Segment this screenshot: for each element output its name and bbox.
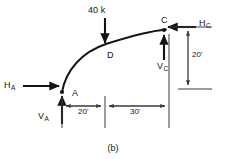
hinge-node-a [60, 90, 64, 94]
vertical-dimension-line [169, 27, 212, 89]
label-point-d: D [107, 51, 114, 60]
label-point-a: A [72, 89, 78, 98]
diagram-canvas [0, 0, 226, 159]
label-dimension-rise: 20' [192, 51, 203, 59]
figure-caption: (b) [0, 143, 226, 153]
arch-rib [62, 30, 166, 93]
label-reaction-hc: HC [199, 19, 210, 28]
hinge-node-c [162, 28, 166, 32]
arch-free-body-diagram: HA VA HC VC A D C 40 k 20' 30' 20' (b) [0, 0, 226, 159]
label-point-c: C [161, 16, 168, 25]
label-reaction-vc: VC [157, 62, 168, 71]
label-reaction-ha: HA [4, 81, 15, 90]
label-reaction-va: VA [38, 112, 49, 121]
label-applied-load: 40 k [88, 6, 105, 15]
label-dimension-span-right: 30' [130, 108, 141, 116]
label-dimension-span-left: 20' [78, 108, 89, 116]
